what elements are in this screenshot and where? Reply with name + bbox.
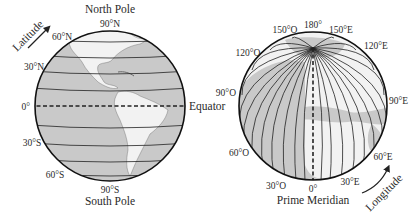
lon-120e-label: 120°E — [364, 41, 388, 51]
lon-90w-label: 90°O — [216, 88, 236, 98]
longitude-globe: 180° 150°O 150°E 120°O 120°E 90°O 90°E 6… — [216, 20, 408, 214]
lat-90s-label: 90°S — [101, 185, 120, 195]
lon-150w-label: 150°O — [273, 25, 298, 35]
globes-diagram: North Pole 90°N 60°N 30°N 0° Equator 30°… — [0, 0, 414, 220]
longitude-arrow: Longitude — [362, 168, 406, 214]
lat-0-label: 0° — [21, 102, 30, 112]
lon-180-label: 180° — [304, 20, 322, 30]
latitude-arrow: Latitude — [10, 18, 48, 54]
lat-30s-label: 30°S — [23, 138, 42, 148]
lon-90e-label: 90°E — [389, 96, 408, 106]
lat-90n-label: 90°N — [100, 19, 120, 29]
lon-150e-label: 150°E — [329, 25, 353, 35]
lat-60n-label: 60°N — [52, 32, 72, 42]
north-pole-label: North Pole — [85, 3, 135, 15]
lon-0-label: 0° — [309, 184, 318, 194]
lon-30w-label: 30°O — [266, 181, 286, 191]
lat-60s-label: 60°S — [46, 170, 65, 180]
prime-meridian-label: Prime Meridian — [277, 194, 350, 206]
longitude-label: Longitude — [363, 171, 406, 214]
equator-label: Equator — [189, 100, 226, 113]
latitude-globe: North Pole 90°N 60°N 30°N 0° Equator 30°… — [10, 3, 226, 207]
lon-30e-label: 30°E — [340, 177, 359, 187]
lon-60w-label: 60°O — [229, 148, 249, 158]
lon-60e-label: 60°E — [373, 152, 392, 162]
lon-120w-label: 120°O — [236, 48, 261, 58]
lat-30n-label: 30°N — [24, 62, 44, 72]
south-pole-label: South Pole — [85, 195, 135, 207]
